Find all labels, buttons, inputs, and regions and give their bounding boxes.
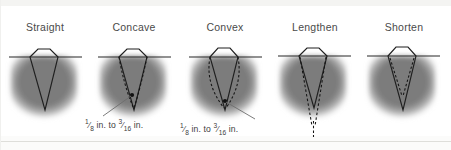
panel-label-shorten: Shorten: [372, 21, 436, 33]
connector-convex: to: [204, 124, 211, 134]
material-body-lengthen: [280, 56, 346, 118]
unit-convex-1: in.: [192, 124, 201, 134]
unit-convex-2: in.: [229, 124, 238, 134]
panel-label-straight: Straight: [14, 21, 76, 33]
fraction-one-eighth-convex: 1⁄8: [180, 124, 189, 134]
material-body-concave: [100, 56, 166, 118]
dimension-note-convex: 1⁄8 in. to 3⁄16 in.: [180, 124, 238, 134]
fraction-three-sixteenths-convex: 3⁄16: [213, 124, 226, 134]
panel-label-concave: Concave: [103, 21, 165, 33]
dimension-note-concave: 1⁄8 in. to 3⁄16 in.: [85, 120, 143, 130]
panel-convex: [189, 48, 262, 119]
figure-canvas: Straight Concave Convex Lengthen Shorten…: [0, 0, 451, 150]
material-body-shorten: [369, 56, 435, 118]
panel-lengthen: [278, 48, 351, 137]
panel-concave: [98, 49, 171, 118]
unit-concave-1: in.: [97, 120, 106, 130]
material-body-straight: [11, 56, 77, 118]
panel-straight: [9, 49, 82, 118]
connector-concave: to: [109, 120, 116, 130]
material-body-convex: [191, 56, 257, 118]
panel-label-convex: Convex: [194, 21, 256, 33]
unit-concave-2: in.: [134, 120, 143, 130]
panel-label-lengthen: Lengthen: [281, 21, 349, 33]
fraction-three-sixteenths-concave: 3⁄16: [118, 120, 131, 130]
panel-shorten: [367, 47, 440, 118]
fraction-one-eighth-concave: 1⁄8: [85, 120, 94, 130]
